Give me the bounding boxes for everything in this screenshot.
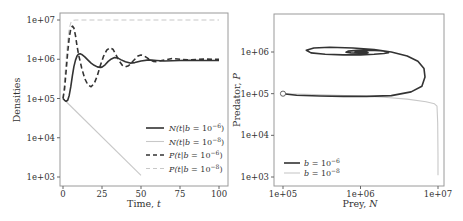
x-tick-label: 25	[97, 189, 108, 199]
x-tick-label: 1e+05	[269, 189, 297, 199]
left-legend: N(t|b = 10−6)N(t|b = 10−8)P(t|b = 10−6)P…	[146, 122, 224, 174]
legend-label: b = 10−8	[304, 167, 340, 178]
right-y-axis-label: Predator, P	[231, 73, 242, 127]
y-tick-label: 1e+07	[27, 15, 55, 25]
x-tick-label: 100	[211, 189, 227, 199]
legend-label: P(t|b = 10−6)	[168, 149, 223, 160]
right-series-group	[280, 47, 438, 175]
figure: 1e+031e+041e+051e+061e+07 0255075100 Den…	[0, 0, 463, 221]
x-tick-label: 75	[175, 189, 186, 199]
series-line-2	[63, 26, 219, 98]
x-tick-label: 1e+07	[424, 189, 452, 199]
y-tick-label: 1e+06	[27, 54, 55, 64]
right-y-axis: 1e+031e+041e+051e+06	[241, 47, 274, 182]
series-line-0	[283, 47, 425, 96]
start-point-marker	[280, 91, 285, 96]
x-tick-label: 0	[60, 189, 65, 199]
y-tick-label: 1e+06	[241, 47, 269, 57]
y-tick-label: 1e+04	[241, 130, 269, 140]
right-plot-panel: 1e+031e+041e+051e+06 1e+051e+061e+07 Pre…	[231, 14, 452, 209]
left-plot-panel: 1e+031e+041e+051e+061e+07 0255075100 Den…	[11, 13, 228, 209]
left-y-axis-label: Densities	[11, 78, 22, 123]
right-plot-frame	[274, 14, 444, 186]
legend-label: N(t|b = 10−8)	[168, 136, 224, 147]
right-legend: b = 10−6b = 10−8	[284, 157, 340, 178]
legend-label: P(t|b = 10−8)	[168, 163, 223, 174]
left-y-axis: 1e+031e+041e+051e+061e+07	[27, 15, 60, 182]
series-line-0	[63, 54, 219, 102]
y-tick-label: 1e+03	[241, 172, 269, 182]
legend-label: N(t|b = 10−6)	[168, 122, 224, 133]
right-x-axis-label: Prey, N	[342, 198, 378, 209]
y-tick-label: 1e+05	[27, 94, 55, 104]
y-tick-label: 1e+05	[241, 89, 269, 99]
y-tick-label: 1e+04	[27, 133, 55, 143]
left-x-axis-label: Time, t	[127, 198, 161, 209]
left-plot-frame	[60, 13, 228, 186]
y-tick-label: 1e+03	[27, 172, 55, 182]
series-line-1	[63, 99, 141, 176]
